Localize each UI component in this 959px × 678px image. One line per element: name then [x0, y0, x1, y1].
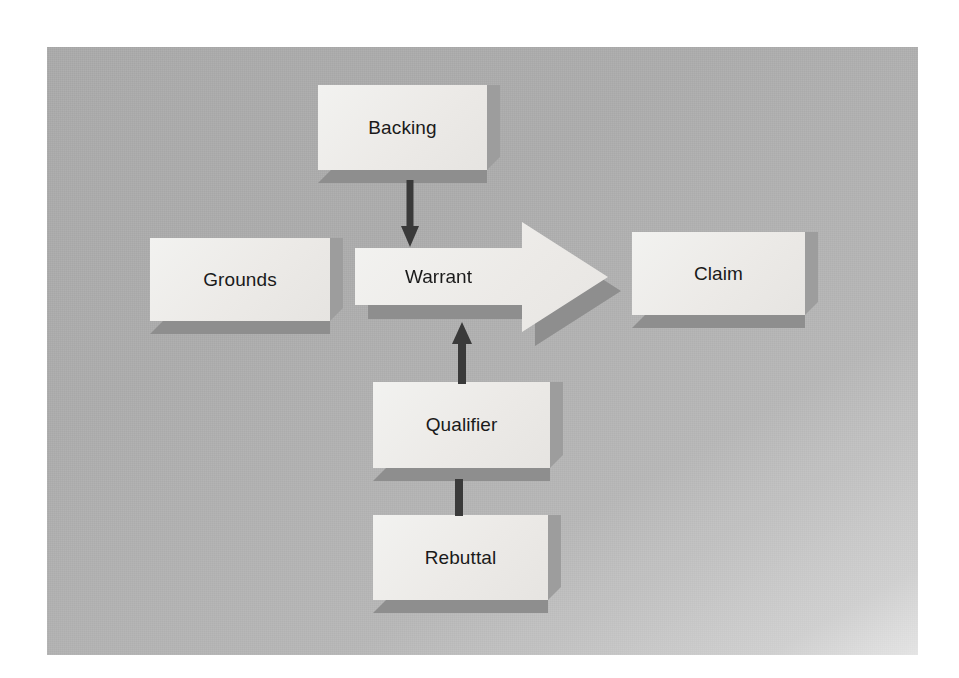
node-grounds-label: Grounds — [203, 269, 277, 291]
node-rebuttal-label: Rebuttal — [425, 547, 497, 569]
node-rebuttal[interactable]: Rebuttal — [373, 515, 548, 600]
node-backing-front-face: Backing — [318, 85, 487, 170]
line-connector-icon — [455, 479, 463, 516]
arrow-down-icon — [401, 180, 419, 247]
connector-backing-to-warrant — [400, 180, 420, 248]
node-grounds[interactable]: Grounds — [150, 238, 330, 321]
node-qualifier[interactable]: Qualifier — [373, 382, 550, 468]
node-backing[interactable]: Backing — [318, 85, 487, 170]
connector-qualifier-to-warrant — [451, 322, 473, 384]
node-grounds-side-face — [330, 238, 343, 321]
node-claim-bottom-face — [632, 315, 805, 328]
node-qualifier-side-face — [550, 382, 563, 468]
node-warrant[interactable]: Warrant — [355, 222, 608, 332]
arrow-up-icon — [452, 322, 472, 384]
node-qualifier-front-face: Qualifier — [373, 382, 550, 468]
connector-rebuttal-to-qualifier — [454, 479, 464, 516]
node-backing-label: Backing — [368, 117, 436, 139]
node-claim-front-face: Claim — [632, 232, 805, 315]
node-qualifier-label: Qualifier — [426, 414, 498, 436]
node-claim-side-face — [805, 232, 818, 315]
node-rebuttal-bottom-face — [373, 600, 548, 613]
node-grounds-bottom-face — [150, 321, 330, 334]
node-rebuttal-side-face — [548, 515, 561, 600]
node-claim[interactable]: Claim — [632, 232, 805, 315]
node-warrant-label: Warrant — [355, 248, 522, 305]
diagram-canvas: Backing Grounds Warrant Claim — [47, 47, 918, 655]
node-claim-label: Claim — [694, 263, 743, 285]
node-grounds-front-face: Grounds — [150, 238, 330, 321]
node-backing-side-face — [487, 85, 500, 170]
node-rebuttal-front-face: Rebuttal — [373, 515, 548, 600]
